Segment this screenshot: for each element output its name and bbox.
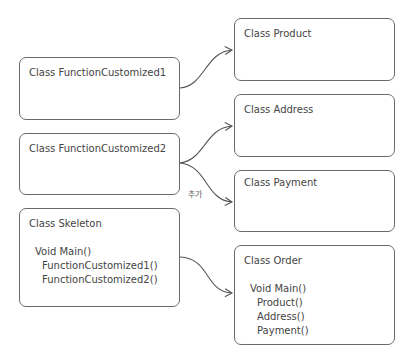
method-call: Product() <box>250 296 309 310</box>
class-title: Class Address <box>244 104 313 115</box>
class-title: Class FunctionCustomized1 <box>29 67 166 78</box>
method-call: FunctionCustomized2() <box>35 273 158 287</box>
method-call: Address() <box>250 310 309 324</box>
arrow-fc2-to-address <box>180 126 232 163</box>
arrow-fc1-to-product <box>180 50 232 88</box>
class-title: Class Payment <box>244 177 317 188</box>
class-box-address: Class Address <box>234 94 395 157</box>
class-box-function-customized2: Class FunctionCustomized2 <box>19 133 180 195</box>
method-block: Void Main() Product() Address() Payment(… <box>250 282 309 338</box>
method-call: FunctionCustomized1() <box>35 259 158 273</box>
class-title: Class Skeleton <box>29 218 102 229</box>
arrow-skeleton-to-order <box>180 257 232 293</box>
class-box-order: Class Order Void Main() Product() Addres… <box>234 245 395 345</box>
connector-label: 추가 <box>188 188 202 199</box>
class-box-payment: Class Payment <box>234 170 395 232</box>
class-box-product: Class Product <box>234 18 395 81</box>
class-box-function-customized1: Class FunctionCustomized1 <box>19 57 180 120</box>
class-title: Class FunctionCustomized2 <box>29 143 166 154</box>
class-title: Class Order <box>244 255 302 266</box>
method-call: Payment() <box>250 324 309 338</box>
method-signature: Void Main() <box>250 282 309 296</box>
class-box-skeleton: Class Skeleton Void Main() FunctionCusto… <box>19 208 180 307</box>
class-title: Class Product <box>244 28 311 39</box>
method-signature: Void Main() <box>35 245 158 259</box>
method-block: Void Main() FunctionCustomized1() Functi… <box>35 245 158 287</box>
